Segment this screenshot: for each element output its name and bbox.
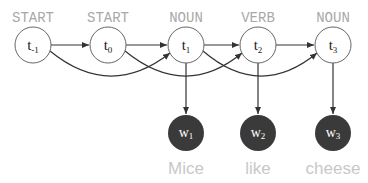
word-cheese: cheese xyxy=(306,159,361,178)
tag-label-t1: NOUN xyxy=(169,10,203,26)
tag-label-t-1: START xyxy=(12,10,54,26)
tag-label-t0: START xyxy=(87,10,129,26)
word-mice: Mice xyxy=(168,159,204,178)
word-like: like xyxy=(245,159,271,178)
tag-label-t3: NOUN xyxy=(316,10,350,26)
hmm-diagram: START START NOUN VERB NOUN t-1 t0 t1 t2 … xyxy=(0,0,368,183)
tag-label-t2: VERB xyxy=(241,10,275,26)
